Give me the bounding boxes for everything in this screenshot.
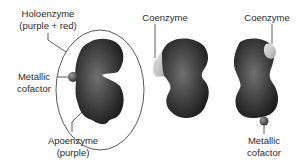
metallic-cofactor-right	[260, 117, 269, 126]
metallic-cofactor-left	[68, 72, 78, 82]
label-metallic-cofactor-right-2: cofactor	[247, 147, 281, 158]
label-coenzyme-right: Coenzyme	[244, 12, 289, 23]
label-apoenzyme-2: (purple)	[57, 147, 90, 158]
label-apoenzyme-1: Apoenzyme	[48, 135, 98, 146]
enzyme-middle	[161, 39, 209, 118]
label-metallic-cofactor-left-1: Metallic	[18, 71, 50, 82]
holoenzyme-leader	[48, 33, 66, 52]
label-coenzyme-middle: Coenzyme	[142, 12, 187, 23]
label-metallic-cofactor-right-1: Metallic	[248, 135, 280, 146]
label-holoenzyme-2: (purple + red)	[19, 20, 76, 31]
label-holoenzyme-1: Holoenzyme	[22, 8, 75, 19]
label-metallic-cofactor-left-2: cofactor	[17, 83, 51, 94]
enzyme-diagram: Holoenzyme (purple + red) Metallic cofac…	[0, 0, 305, 165]
